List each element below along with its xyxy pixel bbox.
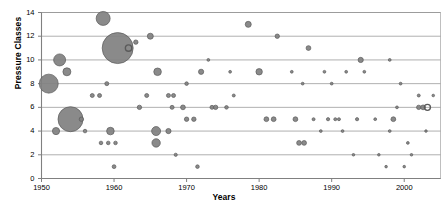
y-tick-label: 12: [17, 32, 35, 40]
data-point: [137, 105, 141, 109]
data-point: [385, 165, 388, 168]
data-point: [232, 94, 235, 97]
data-point: [341, 130, 344, 133]
y-tick-label: 0: [17, 175, 35, 183]
data-point: [107, 127, 115, 135]
data-point: [192, 117, 196, 121]
data-point: [112, 165, 116, 169]
x-tick-label: 1970: [170, 184, 204, 192]
data-point: [184, 117, 188, 121]
data-point: [207, 59, 210, 62]
data-point: [334, 118, 337, 121]
data-point: [196, 165, 200, 169]
y-tick-label: 4: [17, 127, 35, 135]
data-point: [425, 130, 428, 133]
data-point: [388, 130, 391, 133]
plot-area: [0, 0, 448, 210]
data-point: [396, 106, 399, 109]
data-point: [245, 21, 251, 27]
data-point: [52, 127, 59, 134]
data-point: [264, 117, 269, 122]
x-tick-label: 1950: [25, 184, 59, 192]
data-point: [199, 69, 204, 74]
data-point: [170, 105, 174, 109]
data-point: [330, 82, 333, 85]
data-point: [213, 105, 217, 109]
data-point: [99, 141, 103, 145]
x-tick-label: 2000: [387, 184, 421, 192]
data-point: [403, 165, 406, 168]
data-point: [174, 153, 177, 156]
data-point: [293, 117, 298, 122]
data-point: [96, 11, 110, 25]
y-tick-label: 6: [17, 103, 35, 111]
x-tick-label: 1980: [242, 184, 276, 192]
y-tick-label: 8: [17, 80, 35, 88]
data-point: [345, 70, 348, 73]
data-point: [134, 40, 138, 44]
data-point: [417, 105, 421, 109]
bubble-chart: Pressure Classes Years 02468101214 19501…: [0, 0, 448, 210]
data-point: [102, 33, 133, 64]
data-point: [83, 129, 87, 133]
data-point: [297, 141, 302, 146]
data-point: [355, 118, 358, 121]
data-point: [271, 117, 276, 122]
data-point: [79, 117, 83, 121]
data-point: [172, 94, 176, 98]
data-point: [302, 141, 307, 146]
data-point: [145, 94, 149, 98]
data-point: [319, 130, 322, 133]
data-point: [358, 57, 363, 62]
data-point: [290, 70, 293, 73]
y-tick-label: 10: [17, 56, 35, 64]
data-point: [147, 33, 153, 39]
data-point: [152, 127, 161, 136]
data-point: [98, 94, 102, 98]
data-point: [323, 70, 326, 73]
data-point: [326, 118, 329, 121]
data-point: [312, 118, 315, 121]
data-point: [256, 69, 262, 75]
data-point: [90, 94, 94, 98]
data-point: [301, 82, 304, 85]
data-point: [106, 141, 110, 145]
data-point: [363, 70, 366, 73]
data-point: [406, 142, 409, 145]
data-point: [39, 74, 58, 93]
data-point: [154, 68, 162, 76]
data-point: [229, 70, 232, 73]
data-point: [399, 82, 402, 85]
data-point: [378, 153, 381, 156]
data-point: [185, 82, 189, 86]
data-point: [352, 153, 355, 156]
data-point: [306, 46, 311, 51]
data-point: [63, 68, 71, 76]
data-point: [417, 94, 420, 97]
data-point: [374, 118, 377, 121]
data-point: [275, 34, 279, 38]
y-tick-label: 14: [17, 9, 35, 17]
data-point: [105, 82, 109, 86]
data-point: [152, 139, 160, 147]
data-point: [114, 141, 118, 145]
data-point: [225, 106, 229, 110]
data-point: [432, 94, 435, 97]
x-tick-label: 1960: [97, 184, 131, 192]
data-point: [391, 117, 396, 122]
data-point: [337, 118, 340, 121]
data-point: [54, 54, 66, 66]
data-point: [410, 153, 413, 156]
data-point: [166, 94, 170, 98]
x-tick-label: 1990: [315, 184, 349, 192]
data-point: [388, 59, 391, 62]
y-tick-label: 2: [17, 151, 35, 159]
data-point: [181, 105, 186, 110]
data-point: [166, 128, 171, 133]
